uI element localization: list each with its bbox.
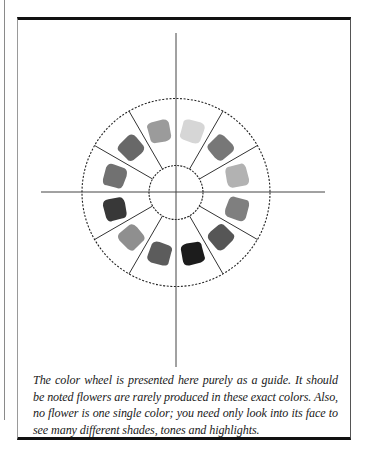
swatch-blob bbox=[116, 132, 147, 163]
swatch-blob bbox=[116, 221, 147, 252]
swatch-blob bbox=[205, 221, 236, 252]
swatch-blob bbox=[146, 240, 173, 267]
swatch-blob bbox=[179, 118, 206, 145]
swatch-blob bbox=[205, 132, 236, 163]
color-swatch bbox=[116, 132, 147, 163]
color-swatch bbox=[102, 163, 129, 190]
swatch-blob bbox=[223, 195, 250, 222]
swatch-blob bbox=[146, 118, 173, 145]
color-swatch bbox=[179, 118, 206, 145]
color-swatch bbox=[146, 240, 173, 267]
color-swatch bbox=[116, 221, 147, 252]
figure-caption: The color wheel is presented here purely… bbox=[33, 372, 338, 438]
color-swatch bbox=[102, 195, 129, 222]
color-swatch bbox=[223, 163, 250, 190]
swatch-blob bbox=[179, 240, 206, 267]
swatch-blob bbox=[102, 163, 129, 190]
swatch-blob bbox=[223, 163, 250, 190]
color-swatch bbox=[205, 221, 236, 252]
color-swatch bbox=[223, 195, 250, 222]
color-swatch bbox=[205, 132, 236, 163]
color-swatch bbox=[179, 240, 206, 267]
swatch-blob bbox=[102, 195, 129, 222]
color-swatch bbox=[146, 118, 173, 145]
